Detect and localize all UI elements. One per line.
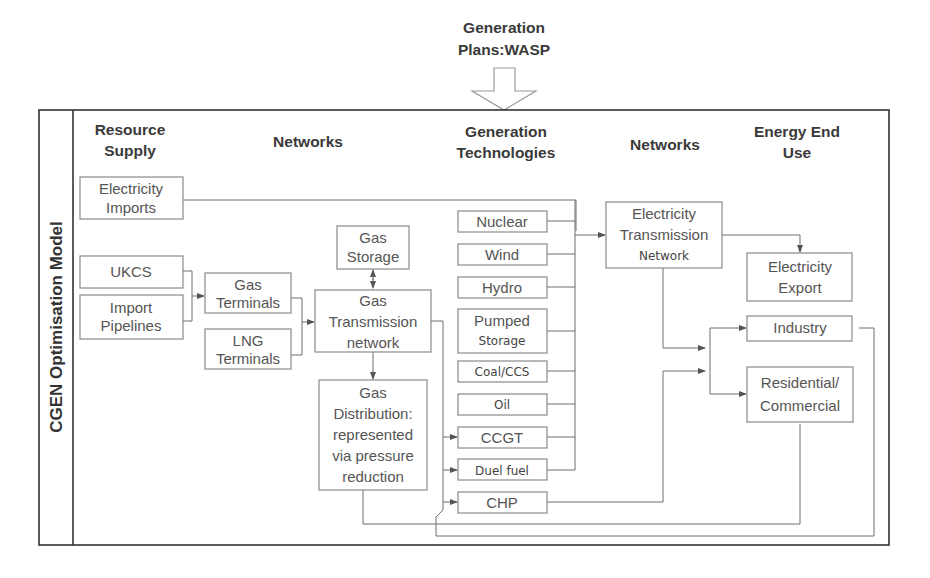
svg-text:network: network	[347, 334, 400, 351]
svg-text:UKCS: UKCS	[110, 263, 152, 280]
svg-text:Terminals: Terminals	[216, 294, 280, 311]
node-oil: Oil	[458, 394, 547, 415]
svg-text:Network: Network	[639, 249, 689, 263]
svg-text:Import: Import	[110, 299, 153, 316]
svg-text:CCGT: CCGT	[481, 429, 524, 446]
svg-text:Export: Export	[778, 279, 822, 296]
svg-text:Gas: Gas	[359, 229, 387, 246]
node-pumped-storage: Pumped Storage	[458, 309, 547, 353]
svg-text:Duel fuel: Duel fuel	[475, 464, 529, 478]
svg-text:Gas: Gas	[359, 384, 387, 401]
svg-text:Nuclear: Nuclear	[476, 213, 528, 230]
header-end-use-1: Energy End	[754, 123, 840, 140]
node-gas-storage: Gas Storage	[337, 226, 409, 269]
svg-text:Commercial: Commercial	[760, 397, 840, 414]
node-electricity-transmission: Electricity Transmission Network	[606, 202, 722, 268]
top-input-line2: Plans:WASP	[458, 41, 550, 58]
svg-text:Industry: Industry	[773, 319, 827, 336]
node-gas-terminals: Gas Terminals	[205, 273, 291, 313]
node-ccgt: CCGT	[458, 427, 547, 448]
header-end-use-2: Use	[783, 144, 812, 161]
svg-text:represented: represented	[333, 426, 413, 443]
svg-text:Oil: Oil	[494, 398, 510, 412]
svg-text:Electricity: Electricity	[768, 258, 833, 275]
node-import-pipelines: Import Pipelines	[80, 295, 183, 339]
header-networks-gas: Networks	[273, 133, 343, 150]
svg-text:Gas: Gas	[359, 292, 387, 309]
node-coal-ccs: Coal/CCS	[458, 361, 547, 382]
svg-text:Storage: Storage	[479, 334, 526, 348]
cgen-diagram: Generation Plans:WASP CGEN Optimisation …	[0, 0, 930, 578]
node-gas-transmission: Gas Transmission network	[315, 290, 431, 352]
svg-text:Pumped: Pumped	[474, 312, 530, 329]
svg-text:Wind: Wind	[485, 246, 519, 263]
node-lng-terminals: LNG Terminals	[205, 329, 291, 369]
node-gas-distribution: Gas Distribution: represented via pressu…	[319, 380, 427, 490]
svg-text:Distribution:: Distribution:	[333, 405, 412, 422]
node-industry: Industry	[747, 316, 852, 341]
header-generation-1: Generation	[465, 123, 547, 140]
node-electricity-imports: Electricity Imports	[80, 177, 183, 219]
header-generation-2: Technologies	[457, 144, 556, 161]
node-residential-commercial: Residential/ Commercial	[747, 367, 853, 422]
node-hydro: Hydro	[458, 277, 547, 298]
svg-text:via pressure: via pressure	[332, 447, 414, 464]
svg-text:Terminals: Terminals	[216, 350, 280, 367]
svg-text:Hydro: Hydro	[482, 279, 522, 296]
svg-text:Coal/CCS: Coal/CCS	[475, 365, 530, 379]
node-chp: CHP	[458, 492, 547, 513]
svg-text:Pipelines: Pipelines	[101, 317, 162, 334]
svg-text:Gas: Gas	[234, 276, 262, 293]
svg-text:Residential/: Residential/	[761, 374, 840, 391]
svg-text:reduction: reduction	[342, 468, 404, 485]
svg-text:Imports: Imports	[106, 199, 156, 216]
svg-text:LNG: LNG	[233, 332, 264, 349]
svg-text:Electricity: Electricity	[99, 180, 164, 197]
svg-text:Transmission: Transmission	[620, 226, 709, 243]
side-label: CGEN Optimisation Model	[47, 221, 66, 433]
down-arrow-icon	[472, 68, 536, 110]
svg-text:Transmission: Transmission	[329, 313, 418, 330]
node-nuclear: Nuclear	[458, 211, 547, 232]
node-duel-fuel: Duel fuel	[458, 459, 547, 480]
svg-text:Electricity: Electricity	[632, 205, 697, 222]
top-input-line1: Generation	[463, 19, 545, 36]
svg-text:Storage: Storage	[347, 248, 400, 265]
header-resource-supply-2: Supply	[104, 142, 156, 159]
node-electricity-export: Electricity Export	[747, 253, 852, 301]
node-wind: Wind	[458, 244, 547, 265]
header-resource-supply-1: Resource	[95, 121, 166, 138]
node-ukcs: UKCS	[80, 256, 183, 288]
svg-text:CHP: CHP	[486, 494, 518, 511]
header-networks-elec: Networks	[630, 136, 700, 153]
